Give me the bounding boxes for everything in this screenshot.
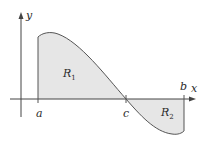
point-b-label: b [180, 80, 187, 93]
region-r1-fill [38, 33, 126, 99]
x-axis-arrow-icon [189, 97, 196, 102]
area-diagram: y x a c b R1 R2 [0, 0, 204, 145]
y-axis-label: y [25, 9, 33, 22]
y-axis-arrow-icon [19, 12, 24, 19]
x-axis-label: x [191, 82, 198, 95]
region-r2-fill [126, 99, 184, 134]
point-c-label: c [123, 107, 129, 120]
point-a-label: a [36, 107, 43, 120]
